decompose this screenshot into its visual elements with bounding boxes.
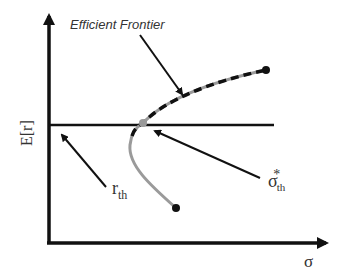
- y-axis-label: E[r]: [18, 120, 35, 146]
- sigma-th-label: σth*: [268, 167, 286, 193]
- r-th-subscript: th: [118, 188, 127, 202]
- frontier-label: Efficient Frontier: [70, 17, 165, 32]
- bottom-endpoint: [172, 204, 180, 212]
- frontier-arrow: [140, 35, 182, 94]
- efficient-frontier-diagram: Efficient Frontier E[r] σ rth σth*: [0, 0, 346, 278]
- top-endpoint: [262, 66, 270, 74]
- sigma-th-subscript: th: [277, 181, 286, 193]
- sigma-th-arrow: [155, 131, 260, 178]
- x-axis-label: σ: [304, 252, 313, 271]
- r-th-arrow: [62, 135, 106, 187]
- tangent-point: [139, 119, 147, 127]
- r-th-label: rth: [112, 178, 127, 202]
- sigma-th-superscript: *: [273, 167, 280, 182]
